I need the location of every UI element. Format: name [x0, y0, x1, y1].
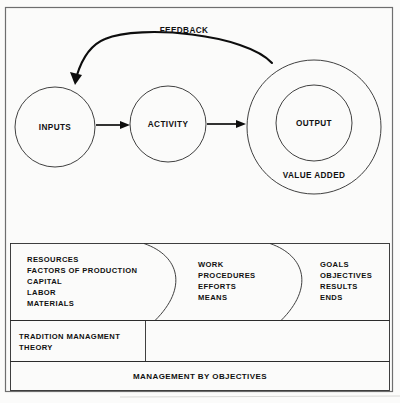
inputs-column-line-3: CAPITAL — [27, 277, 62, 286]
tradition-band-line-1: TRADITION MANAGMENT — [19, 332, 120, 341]
inputs-column-line-4: LABOR — [27, 288, 56, 297]
output-column-line-1: GOALS — [320, 260, 349, 269]
mbo-diagram-figure: INPUTS ACTIVITY OUTPUT VALUE ADDED FEEDB… — [0, 0, 400, 403]
value-added-label: VALUE ADDED — [283, 171, 346, 180]
activity-label: ACTIVITY — [148, 120, 189, 129]
feedback-label: FEEDBACK — [160, 26, 209, 35]
inputs-column-line-2: FACTORS OF PRODUCTION — [27, 266, 137, 275]
activity-column-line-3: EFFORTS — [198, 282, 236, 291]
activity-to-output-arrow-head — [236, 120, 246, 128]
inputs-column-line-1: RESOURCES — [27, 255, 79, 264]
column-divider-arc-1 — [144, 244, 176, 321]
column-divider-arc-2 — [270, 244, 302, 321]
feedback-arrow-head — [70, 72, 82, 85]
activity-column-line-1: WORK — [198, 260, 224, 269]
tradition-band-line-2: THEORY — [19, 343, 53, 352]
activity-column-line-2: PROCEDURES — [198, 271, 256, 280]
output-column-line-3: RESULTS — [320, 282, 358, 291]
output-column-line-4: ENDS — [320, 293, 343, 302]
inputs-column-line-5: MATERIALS — [27, 299, 74, 308]
inputs-to-activity-arrow-head — [120, 121, 130, 129]
output-label: OUTPUT — [296, 119, 332, 128]
diagram-canvas: INPUTS ACTIVITY OUTPUT VALUE ADDED FEEDB… — [0, 0, 400, 403]
activity-column-line-4: MEANS — [198, 293, 227, 302]
mbo-band-label: MANAGEMENT BY OBJECTIVES — [133, 372, 267, 381]
output-column-line-2: OBJECTIVES — [320, 271, 372, 280]
scan-artifact — [120, 396, 400, 397]
feedback-arrow-arc — [77, 32, 272, 75]
inputs-label: INPUTS — [39, 123, 72, 132]
tradition-band — [11, 321, 390, 362]
